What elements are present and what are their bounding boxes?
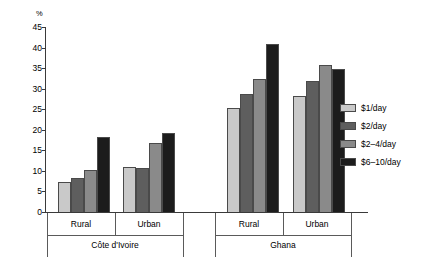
legend-color-swatch: [340, 122, 356, 130]
plot-area: [45, 27, 367, 213]
bar: [253, 79, 266, 213]
legend-color-swatch: [340, 104, 356, 112]
bar: [162, 133, 175, 213]
x-axis-category-label: Urban: [115, 219, 183, 229]
bar-group: [227, 27, 279, 213]
x-axis-region-baseline: [47, 235, 183, 236]
x-axis-line: [45, 212, 368, 213]
y-axis-tick-label: 15: [26, 146, 42, 155]
bar: [266, 44, 279, 213]
bar: [240, 94, 253, 213]
y-axis-tick-label: 10: [26, 166, 42, 175]
y-axis-tick-label: 0: [26, 208, 42, 217]
y-axis-tick-label: 5: [26, 187, 42, 196]
bar: [136, 168, 149, 213]
legend-label: $2–4/day: [361, 137, 396, 151]
bar: [97, 137, 110, 213]
legend-label: $2/day: [361, 119, 387, 133]
bar: [123, 167, 136, 213]
x-axis-category-label: Rural: [47, 219, 115, 229]
bar: [149, 143, 162, 213]
x-axis-region-label: Ghana: [215, 240, 351, 250]
legend-color-swatch: [340, 140, 356, 148]
bar: [306, 81, 319, 213]
x-axis-category-label: Rural: [215, 219, 283, 229]
bar: [319, 65, 332, 213]
x-axis-category-label: Urban: [283, 219, 351, 229]
x-axis-region-label: Côte d'Ivoire: [47, 240, 183, 250]
bar-group: [58, 27, 110, 213]
x-axis-region-separator: [183, 213, 184, 257]
bar: [58, 182, 71, 213]
bar: [84, 170, 97, 213]
x-axis-region-separator: [351, 213, 352, 257]
legend-label: $6–10/day: [361, 155, 401, 169]
grouped-bar-chart: % 454035302520151050 RuralUrbanRuralUrba…: [0, 0, 428, 272]
bar: [227, 108, 240, 213]
y-axis-tick-label: 35: [26, 64, 42, 73]
bar-group: [123, 27, 175, 213]
y-axis-tick-label: 30: [26, 84, 42, 93]
y-axis-tick-label: 25: [26, 105, 42, 114]
y-axis-tick-label: 20: [26, 125, 42, 134]
bar: [71, 178, 84, 213]
bar-group: [293, 27, 345, 213]
bar: [293, 96, 306, 213]
x-axis-region-baseline: [215, 235, 351, 236]
legend-label: $1/day: [361, 101, 387, 115]
y-axis-tick-label: 40: [26, 43, 42, 52]
y-axis: 454035302520151050: [20, 0, 42, 272]
legend-color-swatch: [340, 158, 356, 166]
y-axis-tick-label: 45: [26, 23, 42, 32]
